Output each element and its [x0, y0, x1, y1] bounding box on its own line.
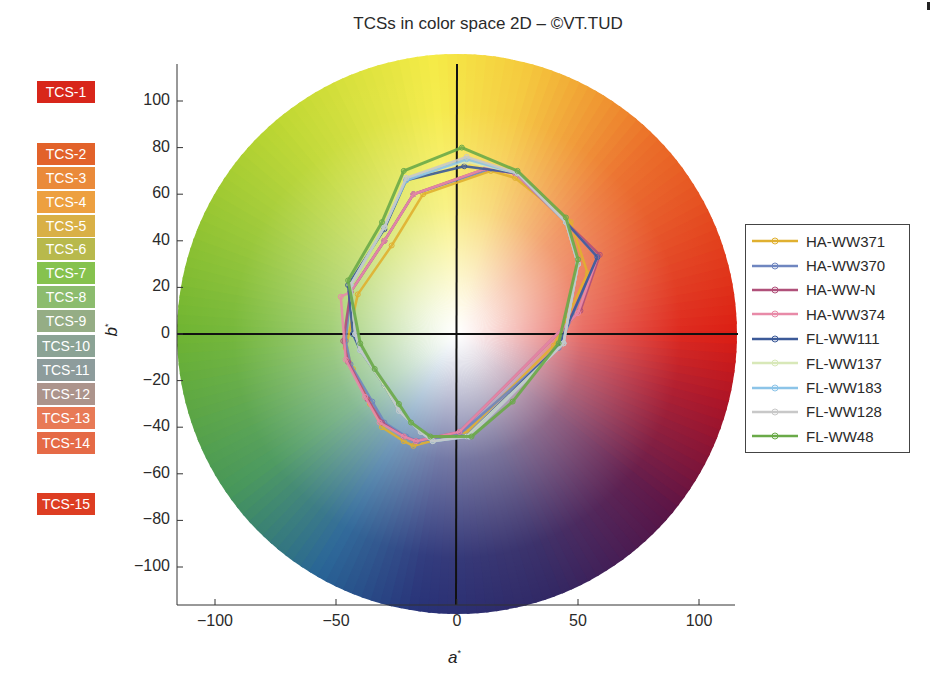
legend-label: HA-WW371: [806, 233, 885, 250]
y-tick-label: −40: [143, 417, 170, 435]
y-tick-label: 100: [143, 91, 170, 109]
legend: HA-WW371HA-WW370HA-WW-NHA-WW374FL-WW111F…: [745, 224, 910, 453]
legend-item: FL-WW128: [746, 400, 909, 424]
legend-label: FL-WW128: [806, 403, 882, 420]
legend-item: FL-WW48: [746, 424, 909, 448]
legend-item: FL-WW111: [746, 327, 909, 351]
legend-item: FL-WW137: [746, 351, 909, 375]
legend-label: FL-WW48: [806, 428, 874, 445]
legend-label: HA-WW-N: [806, 281, 876, 298]
legend-label: HA-WW374: [806, 306, 885, 323]
legend-line-marker-icon: [752, 260, 798, 272]
legend-item: HA-WW-N: [746, 278, 909, 302]
legend-line-marker-icon: [752, 284, 798, 296]
b-axis-zero-line: [456, 64, 457, 605]
y-tick-label: 80: [152, 138, 170, 156]
y-tick-label: 60: [152, 184, 170, 202]
legend-label: FL-WW137: [806, 355, 882, 372]
y-tick-label: −60: [143, 464, 170, 482]
y-tick-label: −100: [134, 557, 170, 575]
legend-line-marker-icon: [752, 235, 798, 247]
x-axis-label: a*: [448, 648, 461, 668]
y-tick-label: −80: [143, 510, 170, 528]
y-tick-label: −20: [143, 371, 170, 389]
legend-label: HA-WW370: [806, 257, 885, 274]
legend-line-marker-icon: [752, 430, 798, 442]
y-tick-label: 0: [161, 324, 170, 342]
legend-label: FL-WW183: [806, 379, 882, 396]
legend-item: FL-WW183: [746, 375, 909, 399]
legend-item: HA-WW374: [746, 302, 909, 326]
legend-line-marker-icon: [752, 308, 798, 320]
legend-line-marker-icon: [752, 333, 798, 345]
x-tick-label: 50: [548, 612, 608, 630]
legend-line-marker-icon: [752, 382, 798, 394]
x-tick-label: −100: [185, 612, 245, 630]
y-tick-label: 20: [152, 277, 170, 295]
x-tick-label: 100: [669, 612, 729, 630]
y-axis-label: b*: [102, 324, 122, 337]
x-tick-label: −50: [306, 612, 366, 630]
legend-label: FL-WW111: [806, 330, 880, 347]
y-tick-label: 40: [152, 231, 170, 249]
x-tick-label: 0: [427, 612, 487, 630]
legend-item: HA-WW370: [746, 253, 909, 277]
legend-item: HA-WW371: [746, 229, 909, 253]
legend-line-marker-icon: [752, 357, 798, 369]
legend-line-marker-icon: [752, 406, 798, 418]
